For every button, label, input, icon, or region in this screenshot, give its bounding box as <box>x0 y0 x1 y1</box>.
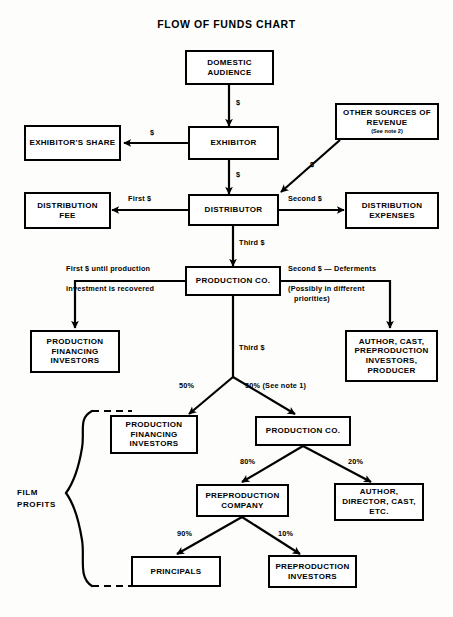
edge-label-percent-20: 20% <box>348 457 363 466</box>
box-distribution-expenses-label: DISTRIBUTION EXPENSES <box>349 201 435 221</box>
annotation-film-profits: FILM PROFITS <box>17 487 56 511</box>
box-production-co-top[interactable]: PRODUCTION CO. <box>185 266 281 296</box>
box-other-sources-label: OTHER SOURCES OF REVENUE <box>339 108 435 128</box>
edge-label-second-dollar: Second $ <box>288 194 322 203</box>
box-distribution-expenses[interactable]: DISTRIBUTION EXPENSES <box>345 192 439 229</box>
box-other-sources-of-revenue[interactable]: OTHER SOURCES OF REVENUE (See note 2) <box>335 103 439 140</box>
edge-label-dollar-audience-exhibitor: $ <box>236 98 240 107</box>
box-production-financing-investors-bottom-label: PRODUCTION FINANCING INVESTORS <box>114 420 194 449</box>
box-principals-label: PRINCIPALS <box>135 567 217 577</box>
edge-label-possibly-priorities-line2: priorities) <box>294 294 330 303</box>
edge-label-second-deferments: Second $ — Deferments <box>288 264 376 273</box>
box-exhibitor[interactable]: EXHIBITOR <box>188 126 279 160</box>
annotation-film-profits-line1: FILM <box>17 487 56 499</box>
box-production-co-bottom-label: PRODUCTION CO. <box>259 426 347 436</box>
box-production-financing-investors-top[interactable]: PRODUCTION FINANCING INVESTORS <box>30 330 120 373</box>
edge-label-percent-50-right: 50% (See note 1) <box>245 381 306 390</box>
box-preproduction-company[interactable]: PREPRODUCTION COMPANY <box>196 484 289 517</box>
connector-lines <box>0 0 453 617</box>
box-author-cast-label: AUTHOR, CAST, PREPRODUCTION INVESTORS, P… <box>349 337 434 376</box>
box-preproduction-investors-label: PREPRODUCTION INVESTORS <box>272 562 353 582</box>
edge-label-dollar-other-sources: $ <box>310 160 314 169</box>
box-preproduction-investors[interactable]: PREPRODUCTION INVESTORS <box>268 555 357 588</box>
box-exhibitors-share[interactable]: EXHIBITOR'S SHARE <box>24 125 121 161</box>
annotation-film-profits-line2: PROFITS <box>17 499 56 511</box>
box-other-sources-note: (See note 2) <box>371 128 403 135</box>
edge-label-percent-50-left: 50% <box>179 381 194 390</box>
flow-of-funds-chart: FLOW OF FUNDS CHART <box>0 0 453 617</box>
edge-label-percent-90: 90% <box>177 529 192 538</box>
box-principals[interactable]: PRINCIPALS <box>131 556 221 587</box>
box-production-co-bottom[interactable]: PRODUCTION CO. <box>255 416 351 446</box>
edge-label-third-dollar: Third $ <box>239 238 265 247</box>
box-exhibitors-share-label: EXHIBITOR'S SHARE <box>28 138 117 148</box>
edge-label-third-dollar-lower: Third $ <box>239 343 265 352</box>
edge-label-percent-80: 80% <box>240 457 255 466</box>
box-production-financing-investors-bottom[interactable]: PRODUCTION FINANCING INVESTORS <box>110 415 198 454</box>
box-distributor[interactable]: DISTRIBUTOR <box>188 194 279 226</box>
edge-label-first-until-production: First $ until production <box>66 264 150 273</box>
edge-label-dollar-exhibitor-distributor: $ <box>236 170 240 179</box>
box-exhibitor-label: EXHIBITOR <box>192 138 275 148</box>
edge-label-possibly-priorities-line1: (Possibly in different <box>288 284 365 293</box>
box-domestic-audience[interactable]: DOMESTIC AUDIENCE <box>185 50 274 85</box>
edge-label-percent-10: 10% <box>278 529 293 538</box>
box-distribution-fee-label: DISTRIBUTION FEE <box>28 201 107 221</box>
box-production-financing-investors-top-label: PRODUCTION FINANCING INVESTORS <box>34 337 116 366</box>
page-title: FLOW OF FUNDS CHART <box>0 18 453 30</box>
box-domestic-audience-label: DOMESTIC AUDIENCE <box>189 58 270 78</box>
box-production-co-top-label: PRODUCTION CO. <box>189 276 277 286</box>
box-preproduction-company-label: PREPRODUCTION COMPANY <box>200 491 285 511</box>
box-distribution-fee[interactable]: DISTRIBUTION FEE <box>24 192 111 229</box>
edge-label-first-dollar: First $ <box>128 194 151 203</box>
box-distributor-label: DISTRIBUTOR <box>192 205 275 215</box>
box-author-director-cast-etc[interactable]: AUTHOR, DIRECTOR, CAST, ETC. <box>334 483 424 521</box>
edge-label-dollar-exhibitor-share: $ <box>150 128 154 137</box>
box-author-cast-preproduction-investors-producer[interactable]: AUTHOR, CAST, PREPRODUCTION INVESTORS, P… <box>345 330 438 382</box>
box-author-director-label: AUTHOR, DIRECTOR, CAST, ETC. <box>338 487 420 516</box>
edge-label-investment-recovered: investment is recovered <box>66 284 154 293</box>
